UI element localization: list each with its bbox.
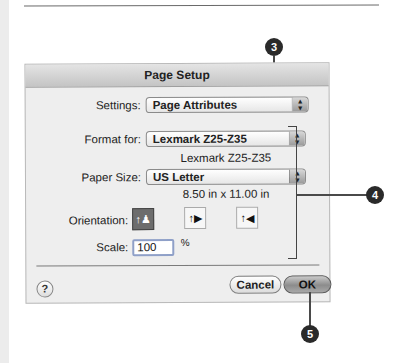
cancel-button[interactable]: Cancel [229,276,281,294]
orientation-landscape-left-icon[interactable]: ↑▶ [184,207,206,229]
callout-5: 5 [301,325,319,343]
scale-unit: % [179,237,191,248]
orientation-label: Orientation: [36,214,128,226]
callout-5-line [309,292,311,326]
paper-dimensions: 8.50 in x 11.00 in [146,187,306,200]
page-setup-dialog: Page Setup Settings: Page Attributes ▲▼ … [24,62,330,303]
dialog-title: Page Setup [25,63,328,87]
scale-input[interactable]: 100 [132,239,174,256]
dialog-separator [36,264,319,266]
callout-3: 3 [265,38,283,56]
scale-label: Scale: [56,241,128,253]
help-button[interactable]: ? [36,281,53,298]
printer-description: Lexmark Z25-Z35 [146,151,306,164]
callout-4-bracket [288,126,297,259]
format-for-label: Format for: [56,133,141,145]
callout-4: 4 [366,186,384,204]
paper-size-label: Paper Size: [56,171,141,183]
paper-size-popup[interactable]: US Letter ▲▼ [146,168,306,185]
popup-arrows-icon: ▲▼ [292,97,308,111]
paper-size-value: US Letter [153,171,204,183]
settings-popup[interactable]: Page Attributes ▲▼ [146,96,309,113]
settings-label: Settings: [56,99,141,111]
ok-button[interactable]: OK [283,275,331,293]
format-for-value: Lexmark Z25-Z35 [153,133,247,145]
format-for-popup[interactable]: Lexmark Z25-Z35 ▲▼ [146,130,306,147]
page-margin-strip [0,0,9,363]
settings-value: Page Attributes [153,99,238,111]
orientation-portrait-icon[interactable]: ↑♟ [132,208,154,230]
top-divider [24,4,379,6]
orientation-landscape-right-icon[interactable]: ↑◀ [236,207,258,229]
callout-4-line [297,194,367,196]
